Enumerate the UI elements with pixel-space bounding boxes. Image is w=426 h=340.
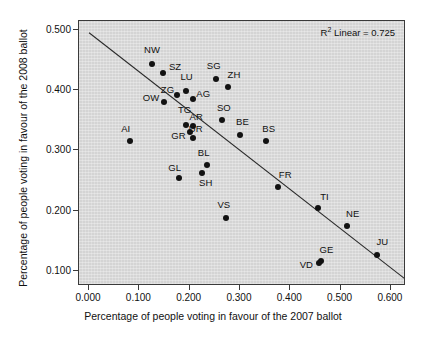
x-axis-tick: [390, 285, 391, 290]
data-point-label: TI: [320, 190, 329, 201]
x-axis-tick-label: 0.400: [277, 292, 302, 303]
data-point-label: BS: [262, 122, 275, 133]
regression-line: [79, 21, 405, 285]
r-squared-annotation: R2 Linear = 0.725: [321, 26, 395, 38]
data-point: [190, 135, 196, 141]
data-point-label: GE: [320, 244, 334, 255]
data-point-label: SO: [217, 101, 231, 112]
x-axis-tick: [340, 285, 341, 290]
y-axis-tick-label: 0.400: [46, 84, 71, 95]
data-point: [237, 132, 243, 138]
data-point-label: BL: [198, 146, 210, 157]
y-axis-title: Percentage of people voting in favour of…: [17, 18, 29, 298]
data-point: [176, 175, 182, 181]
data-point-label: GL: [168, 162, 181, 173]
data-point: [344, 223, 350, 229]
data-point-label: OW: [143, 92, 160, 103]
data-point-label: SG: [207, 59, 221, 70]
x-axis-title: Percentage of people voting in favour of…: [0, 310, 426, 322]
data-point-label: LU: [180, 70, 192, 81]
data-point: [183, 88, 189, 94]
data-point-label: FR: [279, 168, 292, 179]
data-point-label: NW: [144, 44, 160, 55]
plot-area: NWSZSGZHLUZGAGOWTGARURGRAISOBEBSBLSHGLVS…: [78, 20, 405, 285]
data-point: [199, 170, 205, 176]
data-point: [315, 205, 321, 211]
data-point: [127, 138, 133, 144]
data-point: [225, 84, 231, 90]
data-point-label: UR: [189, 122, 203, 133]
data-point-label: AG: [196, 88, 210, 99]
data-point-label: NE: [346, 208, 359, 219]
data-point-label: SH: [199, 177, 212, 188]
data-point: [204, 162, 210, 168]
data-point-label: AR: [190, 111, 203, 122]
data-point-label: BE: [236, 115, 249, 126]
x-axis-tick-label: 0.200: [176, 292, 201, 303]
data-point: [190, 96, 196, 102]
data-point: [263, 138, 269, 144]
r-squared-value: Linear = 0.725: [334, 27, 395, 38]
x-axis-tick-label: 0.500: [327, 292, 352, 303]
data-point: [149, 61, 155, 67]
data-point: [316, 260, 322, 266]
y-axis-tick-label: 0.500: [46, 24, 71, 35]
y-axis-tick-label: 0.300: [46, 144, 71, 155]
data-point: [161, 99, 167, 105]
x-axis-tick: [88, 285, 89, 290]
x-axis-tick: [289, 285, 290, 290]
x-axis-tick: [189, 285, 190, 290]
data-point-label: AI: [121, 123, 130, 134]
data-point: [275, 184, 281, 190]
x-axis-tick: [138, 285, 139, 290]
data-point-label: ZG: [161, 84, 174, 95]
data-point-label: SZ: [169, 61, 181, 72]
data-point: [174, 92, 180, 98]
data-point-label: VS: [217, 199, 230, 210]
x-axis-tick-label: 0.100: [126, 292, 151, 303]
x-axis-tick-label: 0.600: [377, 292, 402, 303]
x-axis-tick-label: 0.300: [226, 292, 251, 303]
data-point: [219, 117, 225, 123]
scatter-chart: Percentage of people voting in favour of…: [0, 0, 426, 340]
data-point: [213, 76, 219, 82]
data-point-label: JU: [376, 236, 388, 247]
data-point-label: ZH: [228, 69, 241, 80]
data-point-label: VD: [300, 258, 313, 269]
y-axis-tick-label: 0.200: [46, 204, 71, 215]
data-point: [160, 70, 166, 76]
x-axis-tick: [239, 285, 240, 290]
data-point-label: GR: [171, 130, 185, 141]
x-axis-tick-label: 0.000: [76, 292, 101, 303]
data-point: [223, 215, 229, 221]
r-superscript: 2: [327, 26, 331, 33]
y-axis-tick-label: 0.100: [46, 264, 71, 275]
data-point: [374, 252, 380, 258]
